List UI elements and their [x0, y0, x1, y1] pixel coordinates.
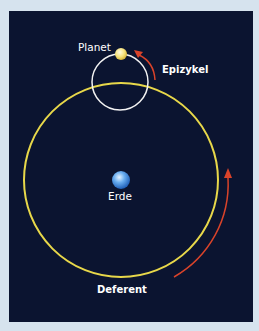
planet-icon — [115, 48, 127, 60]
deferent-arrow — [174, 178, 228, 277]
planet-label: Planet — [78, 41, 111, 53]
epicycle-circle — [92, 54, 148, 110]
earth-icon — [112, 171, 130, 189]
deferent-arrowhead-icon — [224, 168, 232, 178]
epicycle-diagram — [0, 0, 259, 331]
deferent-label: Deferent — [97, 284, 147, 295]
earth-label: Erde — [108, 190, 132, 202]
epicycle-label: Epizykel — [162, 64, 208, 75]
